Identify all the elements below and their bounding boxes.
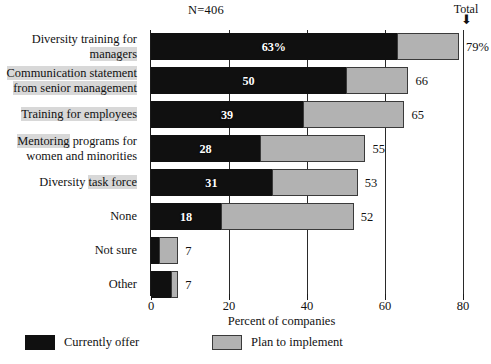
- bar-row: Communication statementfrom senior manag…: [0, 67, 491, 94]
- segment-value-label: 39: [221, 107, 233, 122]
- legend-item-currently-offer: Currently offer: [25, 335, 139, 350]
- legend-swatch-currently-offer: [25, 335, 55, 350]
- stacked-bar: 28: [151, 135, 366, 162]
- legend-swatch-plan-to-implement: [212, 335, 242, 350]
- bar-chart: N=406 Total ⬇ 020406080 Diversity traini…: [0, 0, 491, 364]
- total-value-label: 79%: [466, 39, 489, 54]
- total-value-label: 7: [185, 243, 191, 258]
- total-value-label: 65: [412, 107, 425, 122]
- legend-label-currently-offer: Currently offer: [64, 335, 139, 350]
- segment-value-label: 18: [180, 209, 192, 224]
- down-arrow-icon: ⬇: [443, 15, 489, 25]
- bar-row: Training for employees3965: [0, 101, 491, 128]
- segment-currently-offer: [151, 271, 171, 298]
- bar-row: Diversity task force3153: [0, 169, 491, 196]
- bar-row: Mentoring programs forwomen and minoriti…: [0, 135, 491, 162]
- stacked-bar: 31: [151, 169, 358, 196]
- segment-plan-to-implement: [171, 271, 179, 298]
- stacked-bar: 39: [151, 101, 405, 128]
- segment-currently-offer: [151, 237, 159, 264]
- segment-value-label: 63%: [262, 39, 286, 54]
- legend: Currently offer Plan to implement: [0, 335, 491, 359]
- category-label: Communication statementfrom senior manag…: [0, 66, 137, 95]
- legend-item-plan-to-implement: Plan to implement: [212, 335, 343, 350]
- total-value-label: 52: [361, 209, 374, 224]
- total-value-label: 66: [415, 73, 428, 88]
- sample-size-note: N=406: [188, 3, 224, 18]
- bar-row: Other7: [0, 271, 491, 298]
- stacked-bar: 63%: [151, 33, 459, 60]
- x-axis-title: Percent of companies: [0, 314, 491, 329]
- category-label: Training for employees: [0, 107, 137, 122]
- segment-plan-to-implement: [260, 135, 365, 162]
- category-label: Diversity task force: [0, 175, 137, 190]
- category-label: Mentoring programs forwomen and minoriti…: [0, 134, 137, 163]
- category-label: Diversity training formanagers: [0, 32, 137, 61]
- category-label: Other: [0, 277, 137, 292]
- segment-value-label: 50: [242, 73, 254, 88]
- bar-row: Not sure7: [0, 237, 491, 264]
- x-tick-label-40: 40: [301, 299, 314, 314]
- stacked-bar: [151, 237, 178, 264]
- segment-plan-to-implement: [303, 101, 404, 128]
- stacked-bar: [151, 271, 178, 298]
- segment-plan-to-implement: [397, 33, 459, 60]
- total-value-label: 7: [185, 277, 191, 292]
- segment-plan-to-implement: [346, 67, 408, 94]
- segment-plan-to-implement: [272, 169, 358, 196]
- stacked-bar: 18: [151, 203, 354, 230]
- bar-row: Diversity training formanagers63%79%: [0, 33, 491, 60]
- total-value-label: 55: [373, 141, 386, 156]
- x-tick-label-20: 20: [223, 299, 236, 314]
- segment-value-label: 28: [200, 141, 212, 156]
- segment-plan-to-implement: [159, 237, 179, 264]
- category-label: None: [0, 209, 137, 224]
- x-tick-label-60: 60: [379, 299, 392, 314]
- x-tick-label-80: 80: [457, 299, 470, 314]
- segment-value-label: 31: [205, 175, 217, 190]
- category-label: Not sure: [0, 243, 137, 258]
- bar-row: None1852: [0, 203, 491, 230]
- legend-label-plan-to-implement: Plan to implement: [251, 335, 343, 350]
- segment-plan-to-implement: [221, 203, 354, 230]
- stacked-bar: 50: [151, 67, 408, 94]
- total-value-label: 53: [365, 175, 378, 190]
- x-tick-label-0: 0: [148, 299, 154, 314]
